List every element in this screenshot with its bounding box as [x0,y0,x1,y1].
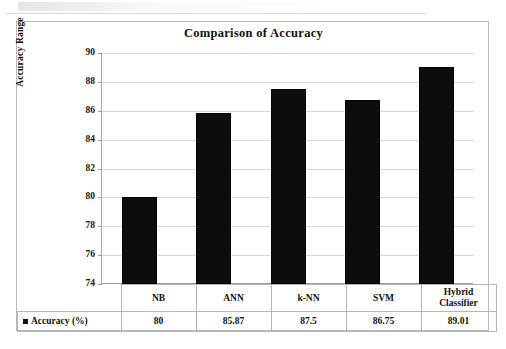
y-tick-label-86: 86 [55,105,95,115]
bar-svm [345,100,380,284]
table-category-nb: NB [121,285,196,312]
y-tick-mark-88 [98,82,102,83]
y-tick-mark-84 [98,140,102,141]
table-value-svm: 86.75 [346,312,421,332]
y-tick-label-80: 80 [55,191,95,201]
table-category-hybrid-classifier: HybridClassifier [421,285,496,312]
gridline-90 [102,53,474,54]
legend-swatch-icon [23,319,28,324]
y-tick-label-78: 78 [55,220,95,230]
y-tick-mark-90 [98,53,102,54]
table-value-k-nn: 87.5 [271,312,346,332]
table-value-ann: 85.87 [196,312,271,332]
table-row-values: Accuracy (%) 8085.8787.586.7589.01 [18,312,497,332]
y-tick-label-88: 88 [55,76,95,86]
y-tick-mark-76 [98,255,102,256]
table-row-categories: NBANNk-NNSVMHybridClassifier [18,285,497,312]
plot-area: 908886848280787674 [101,53,473,284]
y-tick-mark-82 [98,169,102,170]
chart-title: Comparison of Accuracy [17,26,490,41]
y-tick-mark-78 [98,226,102,227]
bar-ann [196,113,231,284]
table-category-k-nn: k-NN [271,285,346,312]
bar-nb [122,197,157,284]
scan-horizontal-rule [6,13,426,14]
table-value-hybrid-classifier: 89.01 [421,312,496,332]
data-table: NBANNk-NNSVMHybridClassifier Accuracy (%… [17,284,497,332]
scan-artifact-strip [18,2,318,11]
y-tick-label-82: 82 [55,163,95,173]
table-value-nb: 80 [121,312,196,332]
legend-label: Accuracy (%) [31,316,88,326]
table-category-svm: SVM [346,285,421,312]
y-tick-mark-86 [98,111,102,112]
y-tick-label-90: 90 [55,47,95,57]
bar-k-nn [271,89,306,284]
y-tick-mark-80 [98,197,102,198]
y-axis-title: Accuracy Range [15,0,25,122]
bar-hybrid-classifier [419,67,454,284]
table-category-ann: ANN [196,285,271,312]
y-tick-label-84: 84 [55,134,95,144]
chart-figure-frame: Comparison of Accuracy Accuracy Range 90… [16,21,489,331]
legend-row-header: Accuracy (%) [18,312,122,332]
table-corner-cell [18,285,122,312]
y-tick-label-76: 76 [55,249,95,259]
